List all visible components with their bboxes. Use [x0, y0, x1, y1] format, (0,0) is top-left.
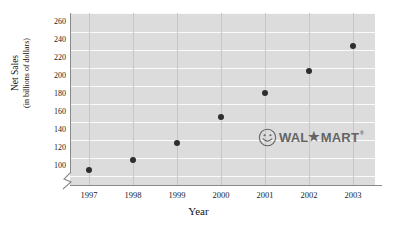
x-tick-label: 2002	[289, 190, 329, 200]
y-tick-label: 100	[40, 162, 66, 170]
data-point	[218, 114, 224, 120]
gridline-horizontal	[70, 50, 375, 51]
y-tick-label: 260	[40, 18, 66, 26]
data-point	[306, 68, 312, 74]
x-axis-line	[70, 185, 382, 186]
y-tick-label: 140	[40, 126, 66, 134]
y-tick-label: 180	[40, 90, 66, 98]
walmart-star-icon: ★	[308, 130, 320, 143]
gridline-horizontal	[70, 158, 375, 159]
walmart-word-wal: WAL	[279, 130, 308, 145]
x-tick-label: 1998	[113, 190, 153, 200]
x-tick-label: 2000	[201, 190, 241, 200]
data-point	[86, 167, 92, 173]
walmart-logo-watermark: WAL★MART®	[258, 128, 364, 147]
walmart-wordmark: WAL★MART®	[279, 130, 364, 145]
y-tick-label: 200	[40, 72, 66, 80]
gridline-vertical	[221, 13, 222, 185]
gridline-vertical	[309, 13, 310, 185]
walmart-word-mart: MART	[321, 130, 359, 145]
y-axis-title-line2: (in billions of dollars)	[21, 8, 32, 138]
y-tick-label: 160	[40, 108, 66, 116]
gridline-vertical	[89, 13, 90, 185]
gridline-horizontal	[70, 32, 375, 33]
gridline-horizontal	[70, 176, 375, 177]
data-point	[350, 43, 356, 49]
data-point	[130, 157, 136, 163]
x-tick-label: 1999	[157, 190, 197, 200]
y-tick-label: 220	[40, 54, 66, 62]
gridline-horizontal	[70, 68, 375, 69]
data-point	[174, 140, 180, 146]
x-tick-label: 2003	[333, 190, 373, 200]
x-tick-label: 1997	[69, 190, 109, 200]
registered-trademark-icon: ®	[360, 130, 364, 136]
y-axis-ticks: 260 240 220 200 180 160 140 120 100	[38, 0, 66, 229]
y-tick-label: 120	[40, 144, 66, 152]
gridline-horizontal	[70, 13, 375, 14]
gridline-horizontal	[70, 86, 375, 87]
gridline-vertical	[265, 13, 266, 185]
smiley-face-icon	[258, 128, 277, 147]
data-point	[262, 90, 268, 96]
y-axis-title: Net Sales (in billions of dollars)	[10, 8, 32, 138]
y-tick-label: 240	[40, 36, 66, 44]
gridline-vertical	[177, 13, 178, 185]
net-sales-scatter-chart: WAL★MART® 260 240 220 200 180 160 140 12…	[0, 0, 397, 229]
plot-area: WAL★MART®	[70, 13, 375, 185]
x-tick-label: 2001	[245, 190, 285, 200]
y-axis-line	[70, 13, 71, 173]
x-axis-title: Year	[0, 205, 397, 217]
gridline-horizontal	[70, 104, 375, 105]
y-axis-title-line1: Net Sales	[10, 8, 21, 138]
gridline-vertical	[353, 13, 354, 185]
gridline-horizontal	[70, 122, 375, 123]
